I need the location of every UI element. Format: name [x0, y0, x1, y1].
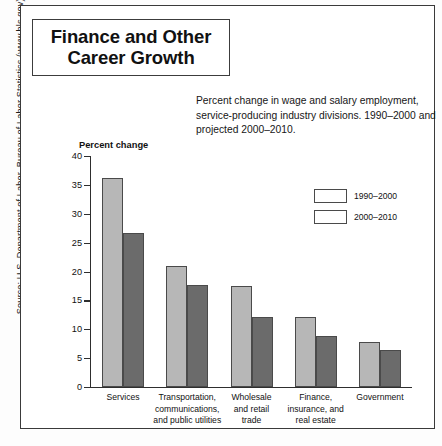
- y-tick-mark: [84, 185, 91, 186]
- y-tick-label: 40: [62, 151, 82, 161]
- y-tick-mark: [84, 358, 91, 359]
- y-tick-mark: [84, 214, 91, 215]
- y-axis-title: Percent change: [79, 140, 148, 150]
- bar-2: [380, 350, 401, 387]
- chart-frame: Finance and Other Career Growth Percent …: [20, 5, 435, 429]
- chart-canvas: Source: U.S. Department of Labor, Bureau…: [0, 0, 442, 446]
- chart-subtitle: Percent change in wage and salary employ…: [196, 94, 436, 138]
- y-tick-mark: [84, 300, 91, 301]
- y-tick-label: 25: [62, 238, 82, 248]
- y-tick-label: 10: [62, 324, 82, 334]
- y-tick-label: 5: [62, 353, 82, 363]
- y-tick-label: 35: [62, 180, 82, 190]
- title-line-1: Finance and Other: [51, 26, 212, 47]
- title-line-2: Career Growth: [67, 47, 194, 68]
- y-tick-mark: [84, 387, 91, 388]
- bar-series-container: [91, 156, 412, 387]
- y-tick-label: 20: [62, 267, 82, 277]
- plot-area: 4035302520151050 ServicesTransportation,…: [62, 151, 412, 391]
- y-tick-mark: [84, 243, 91, 244]
- x-axis-line: [90, 387, 412, 388]
- bar-2: [187, 285, 208, 387]
- y-tick-mark: [84, 272, 91, 273]
- y-tick-label: 30: [62, 209, 82, 219]
- y-tick-label: 15: [62, 295, 82, 305]
- bar-2: [123, 233, 144, 387]
- bar-1: [102, 178, 123, 387]
- y-tick-mark: [84, 156, 91, 157]
- y-tick-mark: [84, 329, 91, 330]
- title-box: Finance and Other Career Growth: [32, 19, 230, 76]
- bar-1: [295, 317, 316, 387]
- bar-1: [359, 342, 380, 387]
- bar-1: [231, 286, 252, 387]
- page-title: Finance and Other Career Growth: [51, 27, 212, 68]
- bar-2: [252, 317, 273, 387]
- y-tick-label: 0: [62, 382, 82, 392]
- x-axis-label: Government: [339, 392, 421, 404]
- bar-2: [316, 336, 337, 387]
- bar-1: [166, 266, 187, 387]
